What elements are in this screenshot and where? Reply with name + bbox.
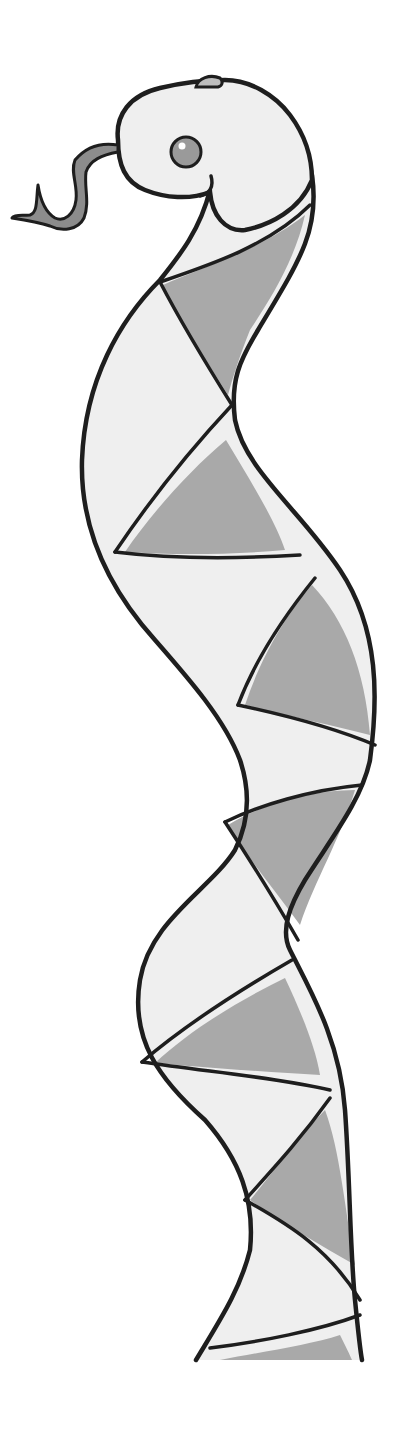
forked-tongue — [12, 144, 118, 229]
eye-highlight — [179, 143, 186, 150]
snake-head — [118, 80, 312, 230]
snake-eye — [171, 137, 201, 167]
snake-illustration — [0, 0, 417, 1441]
head-brow — [196, 76, 222, 87]
